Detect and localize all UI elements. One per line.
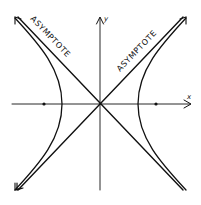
asymptote-label-left: ASYMPTOTE bbox=[29, 14, 73, 59]
asymptote-label-right: ASYMPTOTE bbox=[115, 28, 159, 73]
y-axis: y bbox=[97, 15, 110, 190]
right-focus bbox=[154, 102, 157, 105]
left-focus bbox=[42, 102, 45, 105]
x-axis-label: x bbox=[186, 93, 192, 101]
y-axis-label: y bbox=[103, 15, 109, 23]
hyperbola-diagram: x y ASYMPTOTE ASYMPTOTE bbox=[0, 0, 201, 205]
